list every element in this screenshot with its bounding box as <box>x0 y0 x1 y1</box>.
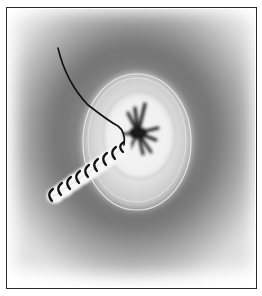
medical-illustration <box>0 0 262 296</box>
raised-ring <box>81 72 193 212</box>
